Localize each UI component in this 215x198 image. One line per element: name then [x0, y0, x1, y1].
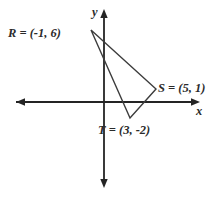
- axis-label-x: x: [196, 105, 202, 118]
- point-label-s: S = (5, 1): [158, 82, 205, 95]
- point-label-r: R = (-1, 6): [8, 27, 61, 40]
- point-label-t: T = (3, -2): [98, 124, 150, 137]
- axis-label-y: y: [92, 6, 98, 19]
